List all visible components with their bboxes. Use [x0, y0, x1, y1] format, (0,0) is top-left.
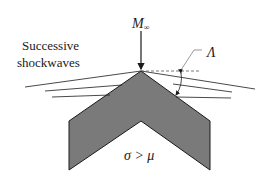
sweep-angle-label: Λ	[205, 45, 216, 60]
condition-label: σ > μ	[124, 148, 154, 163]
shockwaves-label-line2: shockwaves	[17, 55, 80, 70]
angle-leader-line	[181, 50, 202, 70]
freestream-mach-label: M∞	[131, 16, 150, 32]
swept-wing-shock-diagram: M∞ Successive shockwaves Λ σ > μ	[0, 0, 267, 183]
shockwaves-label-line1: Successive	[22, 38, 79, 53]
